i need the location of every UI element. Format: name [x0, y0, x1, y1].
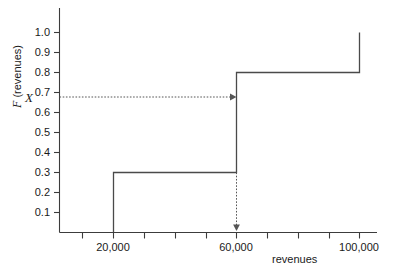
- x-level-arrowhead-icon: [230, 94, 237, 101]
- x-tick-label: 100,000: [327, 242, 391, 253]
- plot-canvas: [0, 0, 393, 276]
- inverse-drop-arrowhead-icon: [233, 225, 240, 232]
- y-axis-title: F (revenues): [12, 45, 23, 108]
- x-tick-label: 20,000: [81, 242, 145, 253]
- y-tick-label: 0.2: [22, 187, 50, 198]
- cdf-step-chart: 1.0 0.9 0.8 0.7 0.6 0.5 0.4 0.3 0.2 0.1 …: [0, 0, 393, 276]
- y-tick-label: 0.5: [22, 127, 50, 138]
- x-tick-marks: [83, 233, 360, 239]
- y-axis-title-symbol: F: [10, 101, 24, 108]
- x-level-annotation-label: X: [25, 91, 33, 104]
- y-tick-label: 0.9: [22, 47, 50, 58]
- y-tick-label: 1.0: [22, 27, 50, 38]
- y-tick-marks: [54, 33, 60, 213]
- y-tick-label: 0.4: [22, 147, 50, 158]
- y-tick-label: 0.1: [22, 207, 50, 218]
- x-tick-label: 60,000: [204, 242, 268, 253]
- y-tick-label: 0.3: [22, 167, 50, 178]
- y-axis-title-text: (revenues): [11, 45, 23, 101]
- y-tick-label: 0.8: [22, 67, 50, 78]
- y-tick-label: 0.6: [22, 107, 50, 118]
- x-axis-title: revenues: [272, 254, 317, 265]
